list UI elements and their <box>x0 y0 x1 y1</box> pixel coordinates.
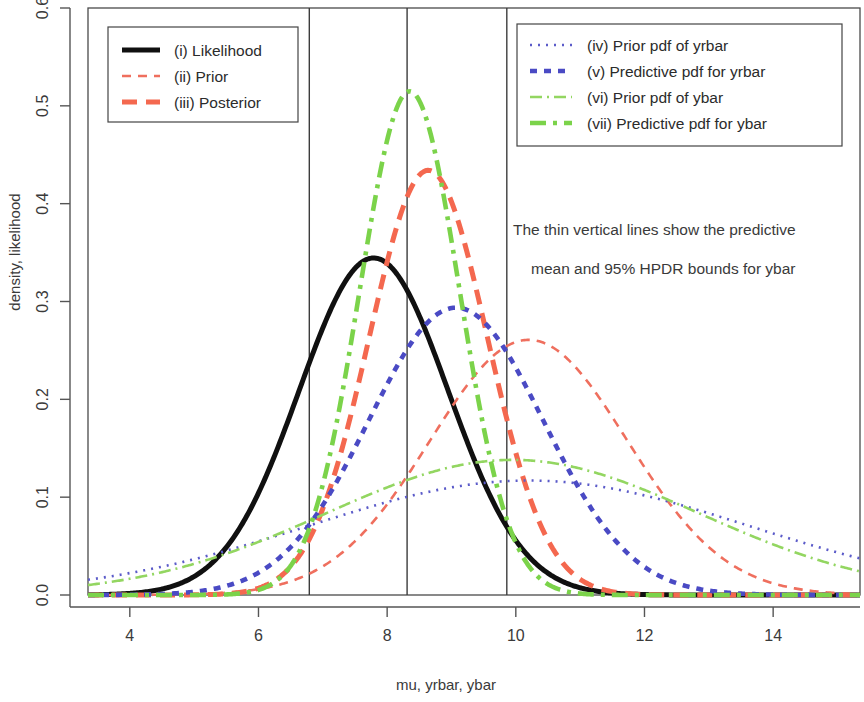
x-tick-label-3: 10 <box>507 627 525 644</box>
curves <box>88 91 860 595</box>
curve-likelihood <box>88 258 860 595</box>
curve-predictive-pdf-ybar <box>88 91 860 595</box>
x-tick-label-1: 6 <box>254 627 263 644</box>
y-tick-label-2: 0.2 <box>34 388 51 410</box>
chart-canvas: 4681012140.00.10.20.30.40.50.6mu, yrbar,… <box>0 0 864 702</box>
hpdr-annotation: The thin vertical lines show the predict… <box>513 221 796 277</box>
y-tick-label-6: 0.6 <box>34 0 51 19</box>
hpdr-annotation-line-1: The thin vertical lines show the predict… <box>513 221 796 238</box>
x-tick-label-4: 12 <box>636 627 654 644</box>
y-tick-label-0: 0.0 <box>34 584 51 606</box>
legend-right-label-prior-pdf-ybar: (vi) Prior pdf of ybar <box>587 89 723 106</box>
x-tick-label-2: 8 <box>383 627 392 644</box>
curve-prior <box>88 340 860 595</box>
x-tick-label-0: 4 <box>125 627 134 644</box>
curve-prior-pdf-ybar <box>88 460 860 585</box>
legend-left-label-prior: (ii) Prior <box>174 68 228 85</box>
legend-right-label-predictive-pdf-ybar: (vii) Predictive pdf for ybar <box>587 115 767 132</box>
legend-right-label-predictive-pdf-yrbar: (v) Predictive pdf for yrbar <box>587 63 765 80</box>
curve-predictive-pdf-yrbar <box>88 308 860 595</box>
y-tick-label-1: 0.1 <box>34 486 51 508</box>
legend-right-label-prior-pdf-yrbar: (iv) Prior pdf of yrbar <box>587 37 728 54</box>
hpdr-annotation-line-2: mean and 95% HPDR bounds for ybar <box>531 260 796 277</box>
curve-prior-pdf-yrbar <box>88 481 860 580</box>
y-tick-label-3: 0.3 <box>34 290 51 312</box>
x-axis-title: mu, yrbar, ybar <box>396 676 496 693</box>
y-tick-label-5: 0.5 <box>34 95 51 117</box>
legend-left[interactable]: (i) Likelihood(ii) Prior(iii) Posterior <box>108 27 298 122</box>
x-tick-label-5: 14 <box>764 627 782 644</box>
legend-left-label-posterior: (iii) Posterior <box>174 94 261 111</box>
y-axis-title: density, likelihood <box>6 193 23 310</box>
y-tick-label-4: 0.4 <box>34 192 51 214</box>
figure-container: 4681012140.00.10.20.30.40.50.6mu, yrbar,… <box>0 0 864 702</box>
legend-left-label-likelihood: (i) Likelihood <box>174 42 262 59</box>
legend-right[interactable]: (iv) Prior pdf of yrbar(v) Predictive pd… <box>517 24 842 146</box>
